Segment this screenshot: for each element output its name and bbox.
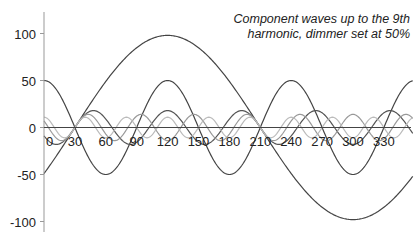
y-axis-ticks: 100500-50-100	[10, 27, 44, 230]
x-tick-label: 30	[68, 134, 82, 149]
annotation-line-2: harmonic, dimmer set at 50%	[233, 27, 410, 42]
x-tick-label: 0	[46, 134, 53, 149]
x-tick-label: 300	[342, 134, 364, 149]
y-tick-label: 50	[22, 74, 36, 89]
x-tick-label: 240	[280, 134, 302, 149]
x-tick-label: 330	[373, 134, 395, 149]
annotation-line-1: Component waves up to the 9th	[233, 12, 410, 27]
y-tick-label: -50	[17, 168, 36, 183]
x-tick-label: 120	[157, 134, 179, 149]
x-tick-label: 90	[129, 134, 143, 149]
x-tick-label: 180	[219, 134, 241, 149]
x-tick-label: 150	[188, 134, 210, 149]
chart-annotation: Component waves up to the 9th harmonic, …	[233, 12, 410, 42]
y-tick-label: -100	[10, 215, 36, 230]
x-tick-label: 210	[249, 134, 271, 149]
y-tick-label: 100	[14, 27, 36, 42]
x-tick-label: 270	[311, 134, 333, 149]
x-tick-label: 60	[99, 134, 113, 149]
x-axis-ticks: 0306090120150180210240270300330	[46, 134, 395, 149]
y-tick-label: 0	[29, 121, 36, 136]
